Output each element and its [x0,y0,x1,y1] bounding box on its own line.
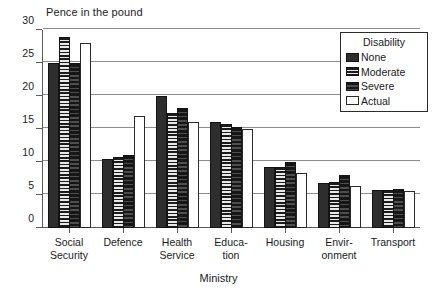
bar-group [258,30,312,228]
category-label-line2: tion [204,249,258,262]
x-axis-tick [123,228,124,233]
legend-item-label: None [361,51,386,63]
y-axis-tick-label: 30 [8,15,34,25]
bar-actual [296,173,307,228]
legend-items: NoneModerateSevereActual [346,51,422,107]
bar-none [156,96,167,228]
category-label-line1: Transport [371,236,416,248]
bar-severe [177,108,188,228]
bar-none [318,183,329,228]
x-axis-category-labels: SocialSecurityDefenceHealthServiceEduca-… [42,236,420,270]
bar-actual [134,116,145,228]
legend-item-none[interactable]: None [346,51,422,63]
bar-severe [285,162,296,228]
bar-moderate [167,113,178,229]
x-axis-tick [177,228,178,233]
x-axis-title: Ministry [0,272,437,284]
bar-severe [339,175,350,228]
category-label-line2: Security [42,249,96,262]
category-label-line1: Defence [103,236,142,248]
bar-none [48,63,59,228]
legend-swatch-icon [346,53,359,62]
bar-moderate [383,190,394,228]
category-label-line1: Housing [266,236,305,248]
category-label-line2: onment [312,249,366,262]
bar-severe [231,127,242,228]
category-label-line1: Envir- [325,236,352,248]
bar-actual [188,122,199,228]
legend: Disability NoneModerateSevereActual [340,32,428,112]
legend-item-moderate[interactable]: Moderate [346,66,422,78]
bar-group [204,30,258,228]
bar-moderate [221,124,232,228]
bar-none [210,122,221,228]
bar-moderate [329,182,340,228]
bar-group [96,30,150,228]
bar-severe [123,155,134,228]
legend-swatch-icon [346,82,359,91]
bar-group [150,30,204,228]
bar-group [42,30,96,228]
y-axis-tick-marks [0,30,42,228]
category-label-line2: Service [150,249,204,262]
x-axis-tick [285,228,286,233]
legend-title: Disability [346,36,422,48]
bar-actual [404,191,415,228]
x-axis-category-label: Transport [366,236,420,249]
bar-severe [69,63,80,228]
gridline [43,28,420,29]
x-axis-tick [339,228,340,233]
x-axis-category-label: Housing [258,236,312,249]
legend-item-severe[interactable]: Severe [346,80,422,92]
bar-none [264,167,275,228]
bar-actual [242,129,253,228]
x-axis-tick [69,228,70,233]
bar-chart: Pence in the pound 051015202530 SocialSe… [0,0,437,295]
bar-actual [80,43,91,228]
category-label-line1: Social [55,236,84,248]
legend-item-actual[interactable]: Actual [346,95,422,107]
bar-moderate [59,37,70,228]
x-axis-category-label: Envir-onment [312,236,366,261]
bar-moderate [113,157,124,228]
x-axis-category-label: SocialSecurity [42,236,96,261]
category-label-line1: Educa- [214,236,247,248]
bar-none [102,159,113,228]
legend-swatch-icon [346,67,359,76]
x-axis-tick [393,228,394,233]
legend-item-label: Actual [361,95,390,107]
y-axis-title: Pence in the pound [46,6,143,18]
x-axis-tick-marks [42,228,420,234]
x-axis-category-label: Educa-tion [204,236,258,261]
bar-actual [350,186,361,228]
bar-moderate [275,167,286,228]
x-axis-category-label: Defence [96,236,150,249]
bar-severe [393,189,404,228]
category-label-line1: Health [162,236,192,248]
legend-item-label: Severe [361,80,394,92]
legend-item-label: Moderate [361,66,405,78]
x-axis-category-label: HealthService [150,236,204,261]
bar-none [372,190,383,228]
x-axis-tick [231,228,232,233]
legend-swatch-icon [346,96,359,105]
